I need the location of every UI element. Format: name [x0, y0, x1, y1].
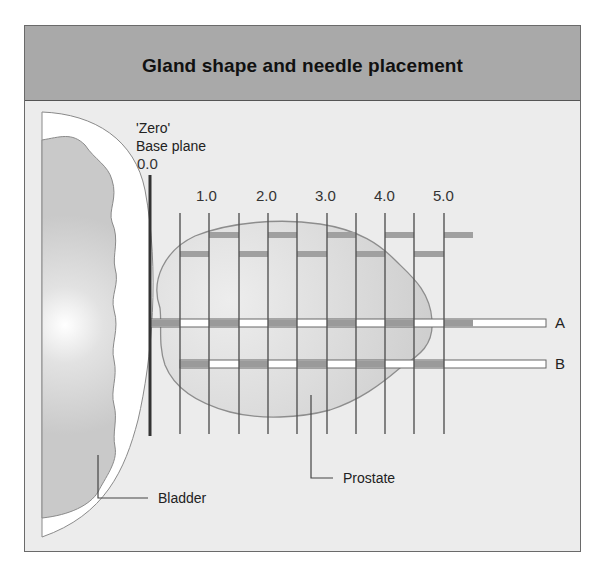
bladder-interior — [42, 137, 116, 519]
needle-row-b — [180, 360, 546, 368]
needle-placement-diagram — [0, 0, 608, 573]
prostate-label: Prostate — [343, 470, 395, 486]
tick-zero: 0.0 — [137, 155, 158, 172]
tick-1: 1.0 — [196, 187, 217, 204]
tick-3: 3.0 — [315, 187, 336, 204]
tick-4: 4.0 — [374, 187, 395, 204]
base-plane-label: Base plane — [136, 138, 206, 154]
tick-2: 2.0 — [256, 187, 277, 204]
bladder-label: Bladder — [158, 490, 206, 506]
tick-5: 5.0 — [433, 187, 454, 204]
base-plane-label-zero: 'Zero' — [136, 120, 170, 136]
row-label-a: A — [555, 315, 565, 331]
row-label-b: B — [555, 356, 565, 372]
